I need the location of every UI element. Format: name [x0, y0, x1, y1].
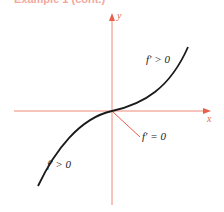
y-axis-label: y	[117, 10, 121, 21]
x-axis-label: x	[207, 113, 211, 124]
origin-pointer	[113, 112, 140, 137]
derivative-figure: Example 1 (cont.) y x f′ > 0 f′ = 0 f′ >…	[0, 0, 224, 212]
annotation-origin: f′ = 0	[142, 130, 166, 142]
annotation-lower-left: f′ > 0	[47, 158, 71, 170]
y-axis-arrow-icon	[109, 13, 115, 21]
annotation-upper-right: f′ > 0	[146, 53, 170, 65]
plot-canvas	[0, 0, 224, 212]
